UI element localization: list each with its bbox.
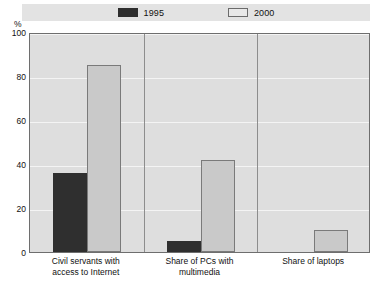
x-axis-category-label: Share of PCs withmultimedia — [143, 256, 257, 277]
y-axis-tick-label: 80 — [2, 73, 26, 82]
legend-swatch-2000-icon — [228, 8, 248, 17]
legend-entry-1995: 1995 — [118, 8, 164, 18]
y-axis-tick-label: 0 — [2, 249, 26, 258]
x-axis-category-line: Share of laptops — [256, 256, 370, 267]
bar-2000-group-1 — [87, 65, 121, 252]
bar-2000-group-2 — [201, 160, 235, 252]
plot-area — [29, 33, 370, 253]
gridline — [30, 78, 369, 79]
bar-2000-group-3 — [314, 230, 348, 252]
y-axis-tick-label: 60 — [2, 117, 26, 126]
group-separator — [257, 34, 258, 252]
bar-1995-group-1 — [53, 173, 87, 252]
x-axis-category-line: multimedia — [143, 267, 257, 278]
gridline — [30, 34, 369, 35]
x-axis-category-line: access to Internet — [29, 267, 143, 278]
legend-label-1995: 1995 — [144, 8, 164, 18]
legend-swatch-1995-icon — [118, 8, 138, 17]
x-axis-category-label: Share of laptops — [256, 256, 370, 267]
bar-1995-group-2 — [167, 241, 201, 252]
legend-label-2000: 2000 — [254, 8, 274, 18]
plot-inner — [30, 34, 369, 252]
x-axis: Civil servants withaccess to InternetSha… — [29, 256, 370, 286]
gridline — [30, 122, 369, 123]
y-axis: 100806040200 — [0, 33, 26, 253]
y-axis-tick-label: 40 — [2, 161, 26, 170]
gridline — [30, 166, 369, 167]
legend-entry-2000: 2000 — [228, 8, 274, 18]
x-axis-category-line: Civil servants with — [29, 256, 143, 267]
y-axis-tick-label: 100 — [2, 29, 26, 38]
group-separator — [144, 34, 145, 252]
x-axis-category-line: Share of PCs with — [143, 256, 257, 267]
chart-legend: 1995 2000 — [22, 4, 370, 21]
x-axis-category-label: Civil servants withaccess to Internet — [29, 256, 143, 277]
y-axis-tick-label: 20 — [2, 205, 26, 214]
